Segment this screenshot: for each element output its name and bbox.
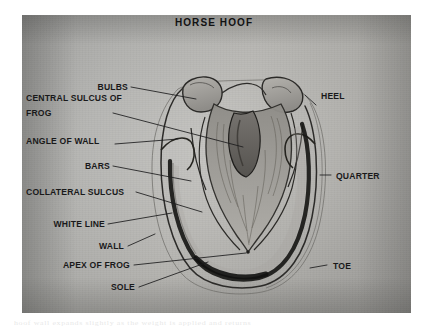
apex-of-frog-point: [246, 250, 250, 254]
label-central-sulcus-of-frog-line1: CENTRAL SULCUS OF: [26, 93, 122, 103]
label-heel: HEEL: [321, 91, 345, 101]
hoof-drawing: [152, 77, 326, 294]
angle-of-wall-left: [161, 138, 194, 170]
diagram-overlay: HORSE HOOF: [0, 0, 427, 333]
label-wall: WALL: [99, 241, 124, 251]
figure-title: HORSE HOOF: [175, 17, 253, 28]
label-apex-of-frog: APEX OF FROG: [63, 260, 130, 270]
leader-white-line: [108, 213, 172, 224]
horse-hoof-figure: hoof wall expands slightly as the weight…: [0, 0, 427, 333]
label-collateral-sulcus: COLLATERAL SULCUS: [26, 187, 124, 197]
label-quarter: QUARTER: [336, 171, 380, 181]
label-toe: TOE: [333, 261, 351, 271]
leader-collateral-sulcus: [136, 192, 202, 212]
label-bulbs: BULBS: [98, 82, 129, 92]
right-label-group: HEEL QUARTER TOE: [321, 91, 380, 271]
label-bars: BARS: [85, 161, 110, 171]
leader-toe: [310, 265, 327, 268]
bulb-cleft: [222, 83, 266, 95]
label-white-line: WHITE LINE: [54, 219, 106, 229]
label-sole: SOLE: [111, 282, 135, 292]
label-central-sulcus-of-frog-line2: FROG: [26, 108, 52, 118]
left-label-group: BULBS CENTRAL SULCUS OF FROG ANGLE OF WA…: [26, 82, 135, 292]
leader-apex-of-frog: [134, 253, 246, 265]
leader-wall: [128, 234, 155, 246]
label-angle-of-wall: ANGLE OF WALL: [26, 136, 99, 146]
